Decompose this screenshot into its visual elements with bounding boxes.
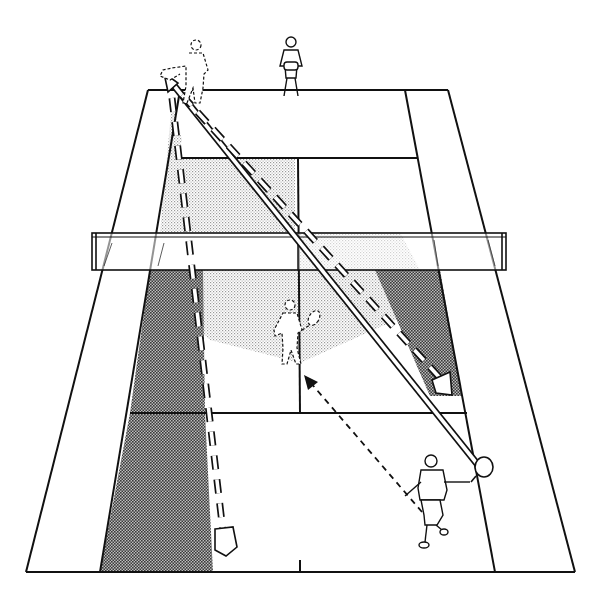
down-line-arrowhead [215,527,237,556]
racket-head [475,457,493,477]
tennis-court-diagram: Doubles tennis tactic: lob over the net … [0,0,602,597]
court-svg [0,0,602,597]
far-player [280,37,302,96]
right-doubles-sideline [448,90,575,572]
player-movement-arrow [304,375,422,512]
movement-arrowhead [304,375,318,390]
near-baseline-player [405,455,470,548]
center-service-line [298,158,300,413]
shaded-zones [100,102,462,572]
